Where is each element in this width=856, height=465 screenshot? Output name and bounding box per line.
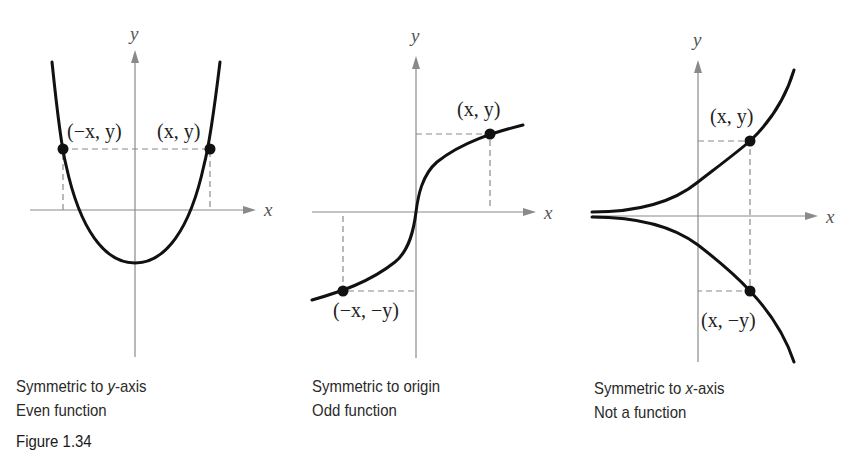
y-axis-label: y [691,29,702,50]
upper-branch-curve [592,70,794,212]
point-neg-x-y [58,144,69,155]
point-label-neg-x-neg-y: (−x, −y) [333,299,399,322]
even-curve [52,62,220,263]
x-axis-arrow-icon [805,212,818,220]
caption-line-2: Not a function [594,401,725,425]
panel-even-function: x y (−x, y) (x, y) [30,23,273,357]
figure-label: Figure 1.34 [16,432,92,452]
x-axis-label: x [825,206,835,227]
x-axis-arrow-icon [243,206,256,214]
x-axis-arrow-icon [523,208,536,216]
y-axis-label: y [128,23,139,44]
y-axis-arrow-icon [412,56,420,69]
point-x-y [485,129,496,140]
caption-x-axis: Symmetric to x-axis Not a function [594,377,725,425]
caption-even: Symmetric to y-axis Even function [16,375,147,423]
panel-not-a-function: x y (x, y) (x, −y) [592,29,835,362]
caption-line-1: Symmetric to origin [312,375,440,399]
point-x-y [205,144,216,155]
caption-line-1: Symmetric to x-axis [594,377,725,401]
x-axis-label: x [543,202,553,223]
lower-branch-curve [592,217,794,362]
caption-line-2: Odd function [312,399,440,423]
point-x-y [745,136,756,147]
guide-lines-lower [343,216,416,291]
caption-odd: Symmetric to origin Odd function [312,375,440,423]
x-axis-label: x [263,199,273,220]
point-x-neg-y [745,286,756,297]
caption-line-2: Even function [16,399,147,423]
y-axis-arrow-icon [131,50,139,63]
y-axis-arrow-icon [694,60,702,73]
panel-odd-function: x y (x, y) (−x, −y) [312,25,553,358]
guide-lines [63,149,210,210]
y-axis-label: y [409,25,420,46]
point-label-x-y: (x, y) [457,98,500,121]
point-label-neg-x-y: (−x, y) [67,120,122,143]
point-label-x-neg-y: (x, −y) [701,309,756,332]
point-neg-x-neg-y [338,286,349,297]
point-label-x-y: (x, y) [710,105,753,128]
caption-line-1: Symmetric to y-axis [16,375,147,399]
point-label-x-y: (x, y) [157,120,200,143]
